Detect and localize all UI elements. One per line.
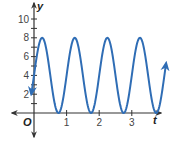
y-axis-label: y (36, 0, 44, 12)
sinusoid-curve (31, 38, 166, 113)
y-tick-label: 2 (23, 89, 29, 100)
x-tick-label: 2 (96, 117, 102, 128)
y-tick-label: 8 (23, 32, 29, 43)
x-axis-label: t (153, 114, 158, 126)
y-tick-label: 10 (18, 14, 30, 25)
x-tick-label: 3 (129, 117, 135, 128)
y-tick-label: 4 (23, 70, 29, 81)
y-tick-label: 6 (23, 51, 29, 62)
x-tick-label: 1 (64, 117, 70, 128)
sinusoid-chart: 123 246810 t y O (0, 0, 179, 144)
origin-label: O (23, 116, 32, 128)
